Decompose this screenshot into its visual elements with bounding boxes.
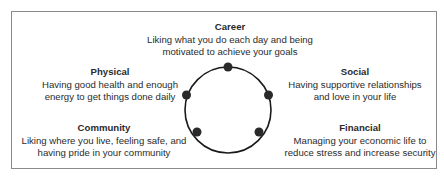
social-dot-icon [264, 91, 273, 100]
node-community: Community Liking where you live, feeling… [18, 122, 190, 160]
node-description: Liking where you live, feeling safe, and [18, 135, 190, 148]
node-description: Having supportive relationships [285, 79, 425, 92]
physical-dot-icon [182, 91, 191, 100]
node-title: Community [18, 122, 190, 135]
node-physical: Physical Having good health and enough e… [40, 66, 180, 104]
community-dot-icon [193, 128, 202, 137]
node-title: Social [285, 66, 425, 79]
node-description: having pride in your community [18, 147, 190, 160]
node-description: Managing your economic life to [278, 135, 442, 148]
node-description: energy to get things done daily [40, 91, 180, 104]
financial-dot-icon [255, 128, 264, 137]
node-description: Having good health and enough [40, 79, 180, 92]
node-title: Physical [40, 66, 180, 79]
node-description: reduce stress and increase security [278, 147, 442, 160]
node-financial: Financial Managing your economic life to… [278, 122, 442, 160]
node-social: Social Having supportive relationships a… [285, 66, 425, 104]
node-career: Career Liking what you do each day and b… [130, 21, 330, 59]
career-dot-icon [224, 63, 233, 72]
node-description: and love in your life [285, 91, 425, 104]
node-title: Financial [278, 122, 442, 135]
node-description: Liking what you do each day and being [130, 34, 330, 47]
node-title: Career [130, 21, 330, 34]
node-description: motivated to achieve your goals [130, 46, 330, 59]
